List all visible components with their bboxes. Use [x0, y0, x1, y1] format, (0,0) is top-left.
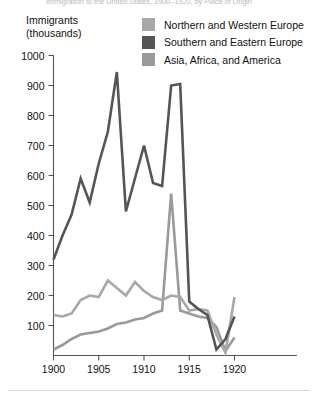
x-tick-label: 1920 [223, 363, 247, 375]
x-tick-label: 1900 [42, 363, 66, 375]
y-tick-label: 1000 [21, 50, 45, 62]
y-tick-label: 200 [27, 290, 45, 302]
y-tick-label: 400 [27, 230, 45, 242]
x-tick-labels: 19001905191019151920 [42, 363, 247, 375]
y-tick-marks [49, 56, 54, 326]
y-tick-label: 700 [27, 140, 45, 152]
series-line-asia-africa-and-america [54, 194, 235, 352]
immigration-line-chart: Immigration to the United States, 1900–1… [0, 0, 318, 397]
x-axis: 19001905191019151920 [42, 356, 297, 375]
y-tick-label: 100 [27, 320, 45, 332]
y-tick-labels: 1002003004005006007008009001000 [21, 50, 45, 332]
series-lines [54, 72, 235, 353]
y-tick-label: 300 [27, 260, 45, 272]
x-tick-marks [54, 356, 235, 361]
y-tick-label: 500 [27, 200, 45, 212]
y-axis: 1002003004005006007008009001000 [21, 50, 53, 357]
footer-divider [8, 390, 310, 391]
series-line-southern-and-eastern-europe [54, 72, 235, 350]
plot-area: 1002003004005006007008009001000 19001905… [0, 0, 318, 397]
y-tick-label: 600 [27, 170, 45, 182]
x-tick-label: 1905 [87, 363, 111, 375]
y-tick-label: 800 [27, 110, 45, 122]
y-tick-label: 900 [27, 80, 45, 92]
x-tick-label: 1915 [178, 363, 202, 375]
x-tick-label: 1910 [132, 363, 156, 375]
